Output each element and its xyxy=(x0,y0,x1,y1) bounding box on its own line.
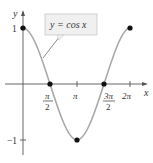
y-axis-arrow-icon xyxy=(21,10,25,16)
x-tick-label-pi-over-2: π 2 xyxy=(43,91,53,112)
svg-text:2: 2 xyxy=(45,102,50,112)
x-axis-arrow-icon xyxy=(142,82,148,86)
x-tick-label-2pi: 2π xyxy=(122,91,132,101)
x-tick-label-3pi-over-2: 3π 2 xyxy=(103,91,115,112)
svg-text:π: π xyxy=(45,91,50,101)
point-max-0 xyxy=(20,25,25,30)
y-tick-label-neg1: −1 xyxy=(7,136,17,146)
y-tick-label-1: 1 xyxy=(12,24,17,34)
point-min-pi xyxy=(74,137,79,142)
point-zero-3pi-over-2 xyxy=(101,81,106,86)
callout-pointer xyxy=(43,36,60,58)
cosine-graph: y x 1 −1 π 2 π 3π 2 2π y = cos x xyxy=(0,0,153,163)
function-label-callout: y = cos x xyxy=(43,14,97,58)
x-tick-label-pi: π xyxy=(73,91,78,101)
x-axis-label: x xyxy=(143,87,149,98)
point-zero-pi-over-2 xyxy=(47,81,52,86)
point-max-2pi xyxy=(127,25,132,30)
svg-text:3π: 3π xyxy=(103,91,114,101)
svg-text:2: 2 xyxy=(106,102,111,112)
y-axis-label: y xyxy=(12,8,18,19)
function-label-text: y = cos x xyxy=(49,19,87,30)
